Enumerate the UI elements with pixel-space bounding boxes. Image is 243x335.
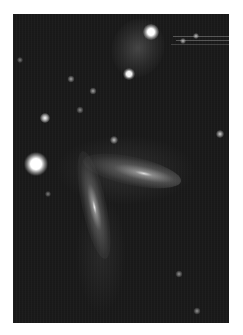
streak-artifact-2 [176,40,229,41]
star-far-left [17,57,23,63]
star-left-lower [45,191,51,197]
star-mid-small-3 [77,107,84,114]
star-lower-right-1 [176,271,183,278]
star-left-small [40,113,50,123]
star-galaxy-top [110,136,118,144]
star-left-bright [24,152,48,176]
star-mid-small-2 [90,88,97,95]
star-top-bright [143,24,159,40]
streak-artifact-1 [173,36,229,37]
streak-artifact-3 [171,44,229,45]
star-mid-small-1 [68,76,75,83]
astronomy-image [13,14,229,323]
star-right [216,130,224,138]
star-lower-right-2 [194,308,201,315]
star-upper-mid [123,68,135,80]
